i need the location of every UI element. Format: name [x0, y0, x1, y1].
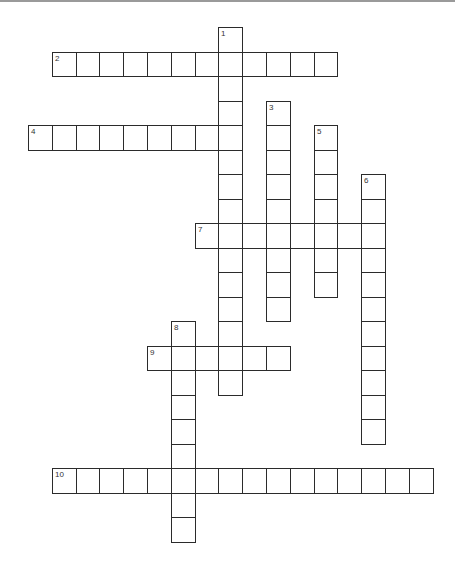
crossword-cell[interactable] [171, 419, 196, 445]
crossword-cell[interactable] [171, 444, 196, 469]
crossword-cell[interactable] [195, 52, 219, 77]
crossword-cell[interactable] [242, 223, 267, 249]
crossword-cell[interactable]: 5 [314, 125, 338, 151]
crossword-cell[interactable] [147, 468, 172, 494]
crossword-cell[interactable] [123, 125, 148, 151]
crossword-cell[interactable] [337, 468, 362, 494]
crossword-cell[interactable] [266, 150, 291, 175]
crossword-cell[interactable] [218, 150, 243, 175]
crossword-cell[interactable] [266, 346, 291, 371]
crossword-cell[interactable] [147, 52, 172, 77]
crossword-cell[interactable]: 3 [266, 101, 291, 126]
crossword-cell[interactable] [218, 248, 243, 273]
crossword-cell[interactable] [409, 468, 434, 494]
crossword-cell[interactable] [171, 52, 196, 77]
crossword-cell[interactable] [218, 76, 243, 102]
crossword-cell[interactable] [266, 248, 291, 273]
crossword-cell[interactable] [195, 468, 219, 494]
crossword-cell[interactable] [361, 468, 386, 494]
crossword-cell[interactable] [290, 468, 315, 494]
clue-number-label: 7 [198, 225, 202, 234]
crossword-cell[interactable] [218, 321, 243, 347]
crossword-cell[interactable] [171, 395, 196, 420]
crossword-cell[interactable]: 8 [171, 321, 196, 347]
crossword-cell[interactable] [361, 272, 386, 298]
crossword-cell[interactable] [361, 223, 386, 249]
crossword-cell[interactable] [99, 125, 124, 151]
crossword-cell[interactable] [218, 468, 243, 494]
crossword-cell[interactable] [314, 223, 338, 249]
crossword-cell[interactable] [242, 468, 267, 494]
crossword-cell[interactable] [314, 174, 338, 200]
crossword-cell[interactable] [218, 101, 243, 126]
crossword-cell[interactable] [218, 346, 243, 371]
crossword-cell[interactable] [171, 346, 196, 371]
crossword-cell[interactable] [76, 468, 100, 494]
crossword-cell[interactable] [99, 468, 124, 494]
crossword-cell[interactable] [242, 52, 267, 77]
clue-number-label: 5 [317, 127, 321, 136]
crossword-cell[interactable] [171, 468, 196, 494]
crossword-cell[interactable] [337, 223, 362, 249]
crossword-cell[interactable] [266, 297, 291, 322]
crossword-cell[interactable]: 10 [52, 468, 77, 494]
crossword-cell[interactable] [290, 52, 315, 77]
crossword-cell[interactable] [314, 248, 338, 273]
crossword-cell[interactable] [52, 125, 77, 151]
crossword-cell[interactable] [361, 321, 386, 347]
crossword-cell[interactable] [242, 346, 267, 371]
clue-number-label: 9 [150, 348, 154, 357]
crossword-cell[interactable] [266, 52, 291, 77]
crossword-cell[interactable] [218, 52, 243, 77]
crossword-cell[interactable]: 4 [28, 125, 53, 151]
crossword-cell[interactable] [314, 52, 338, 77]
crossword-cell[interactable] [314, 468, 338, 494]
crossword-cell[interactable] [361, 297, 386, 322]
crossword-cell[interactable] [76, 125, 100, 151]
crossword-cell[interactable] [171, 125, 196, 151]
crossword-cell[interactable] [266, 174, 291, 200]
crossword-cell[interactable]: 1 [218, 27, 243, 53]
crossword-cell[interactable] [266, 125, 291, 151]
crossword-cell[interactable] [266, 468, 291, 494]
crossword-cell[interactable] [123, 52, 148, 77]
crossword-cell[interactable] [385, 468, 410, 494]
crossword-cell[interactable] [195, 346, 219, 371]
crossword-cell[interactable]: 7 [195, 223, 219, 249]
crossword-cell[interactable] [361, 346, 386, 371]
crossword-cell[interactable] [218, 223, 243, 249]
crossword-cell[interactable] [218, 125, 243, 151]
crossword-cell[interactable] [361, 248, 386, 273]
crossword-cell[interactable] [123, 468, 148, 494]
crossword-cell[interactable] [361, 199, 386, 224]
crossword-cell[interactable] [171, 517, 196, 543]
crossword-cell[interactable] [314, 150, 338, 175]
crossword-cell[interactable] [195, 125, 219, 151]
crossword-cell[interactable] [171, 493, 196, 518]
crossword-cell[interactable] [361, 370, 386, 396]
crossword-cell[interactable] [266, 199, 291, 224]
crossword-cell[interactable] [147, 125, 172, 151]
crossword-cell[interactable] [314, 272, 338, 298]
crossword-cell[interactable] [218, 297, 243, 322]
crossword-grid: 12345678910 [0, 0, 455, 567]
crossword-cell[interactable] [218, 272, 243, 298]
crossword-cell[interactable] [218, 174, 243, 200]
clue-number-label: 3 [269, 103, 273, 112]
crossword-cell[interactable]: 2 [52, 52, 77, 77]
crossword-cell[interactable] [361, 419, 386, 445]
clue-number-label: 8 [174, 323, 178, 332]
crossword-cell[interactable] [76, 52, 100, 77]
crossword-cell[interactable] [314, 199, 338, 224]
crossword-cell[interactable]: 6 [361, 174, 386, 200]
crossword-cell[interactable] [361, 395, 386, 420]
crossword-cell[interactable] [99, 52, 124, 77]
crossword-cell[interactable] [290, 223, 315, 249]
crossword-cell[interactable] [266, 223, 291, 249]
clue-number-label: 6 [364, 176, 368, 185]
crossword-cell[interactable] [171, 370, 196, 396]
crossword-cell[interactable]: 9 [147, 346, 172, 371]
crossword-cell[interactable] [218, 370, 243, 396]
crossword-cell[interactable] [266, 272, 291, 298]
crossword-cell[interactable] [218, 199, 243, 224]
